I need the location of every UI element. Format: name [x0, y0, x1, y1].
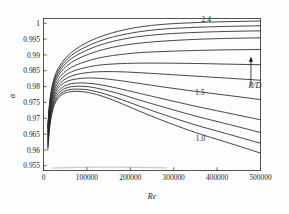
curve-series-7 — [48, 50, 261, 133]
plot-frame — [44, 19, 261, 171]
y-tick-label-4: 0.975 — [23, 98, 40, 107]
curve-label-2-4: 2.4 — [202, 15, 212, 24]
x-tick-label-2: 200000 — [119, 173, 141, 182]
scan-artifact-smudge — [51, 167, 167, 168]
curve-series-group — [48, 21, 261, 153]
alpha-vs-reynolds-chart: 0100000200000300000400000500000 0.9550.9… — [0, 0, 289, 214]
y-tick-label-1: 0.96 — [27, 146, 40, 155]
y-tick-label-3: 0.97 — [27, 114, 40, 123]
arrow-head — [249, 57, 253, 62]
curve-series-4 — [48, 78, 261, 140]
chart-figure: 0100000200000300000400000500000 0.9550.9… — [0, 0, 289, 214]
y-tick-label-9: 1 — [36, 19, 40, 28]
curve-label-1-0: 1.0 — [196, 134, 206, 143]
y-tick-label-7: 0.99 — [27, 51, 40, 60]
x-tick-label-5: 500000 — [249, 173, 271, 182]
curve-series-2 — [48, 86, 261, 145]
chart-annotations: 2.41.51.0R/D — [195, 15, 262, 143]
curve-series-10 — [48, 26, 261, 127]
curve-series-9 — [48, 31, 261, 129]
x-tick-label-4: 400000 — [206, 173, 228, 182]
x-tick-label-0: 0 — [42, 173, 46, 182]
x-axis-title: Re — [147, 192, 157, 201]
y-tick-label-6: 0.985 — [23, 66, 40, 75]
curve-series-0 — [48, 91, 261, 153]
y-tick-label-5: 0.98 — [27, 82, 40, 91]
curve-series-1 — [48, 89, 261, 147]
y-tick-label-0: 0.955 — [23, 161, 40, 170]
ratio-axis-label: R/D — [247, 81, 261, 90]
x-axis-ticks: 0100000200000300000400000500000 — [42, 167, 272, 182]
x-tick-label-3: 300000 — [163, 173, 185, 182]
curve-label-1-5: 1.5 — [195, 88, 205, 97]
y-tick-label-2: 0.965 — [23, 130, 40, 139]
smudge-stroke — [51, 167, 167, 168]
y-axis-title: α — [8, 93, 17, 98]
x-tick-label-1: 100000 — [76, 173, 98, 182]
y-tick-label-8: 0.995 — [23, 35, 40, 44]
